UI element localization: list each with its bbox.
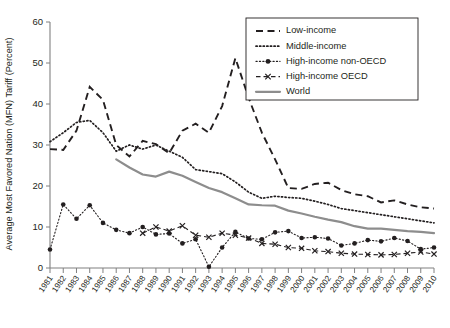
y-tick-label: 30 — [32, 139, 43, 150]
data-point-marker — [193, 237, 198, 242]
data-point-marker — [127, 231, 132, 236]
data-point-marker — [61, 202, 66, 207]
data-point-marker — [339, 243, 344, 248]
data-point-marker — [154, 232, 159, 237]
y-tick-labels: 0102030405060 — [32, 16, 50, 273]
legend-label: High-income non-OECD — [286, 56, 387, 66]
legend-swatch-dot-marker — [266, 59, 271, 64]
data-point-marker — [87, 203, 92, 208]
data-point-marker — [114, 228, 119, 233]
x-tick-label: 2010 — [421, 274, 439, 294]
data-point-marker — [286, 229, 291, 234]
series-high-income-oecd — [140, 223, 437, 257]
data-point-marker — [220, 245, 225, 250]
data-point-marker — [313, 235, 318, 240]
y-tick-label: 40 — [32, 98, 43, 109]
data-point-marker — [180, 223, 185, 228]
x-tick-labels: 1981198219831984198519861987198819891990… — [37, 268, 439, 294]
data-point-marker — [431, 251, 436, 256]
y-tick-label: 50 — [32, 57, 43, 68]
y-tick-label: 20 — [32, 180, 43, 191]
legend-label: High-income OECD — [286, 71, 368, 81]
mfn-tariff-line-chart: Average Most Favored Nation (MFN) Tariff… — [0, 0, 450, 328]
y-tick-label: 0 — [38, 262, 43, 273]
series-line — [50, 120, 434, 222]
legend-label: Low-income — [286, 25, 336, 35]
data-point-marker — [207, 264, 212, 269]
legend-label: Middle-income — [286, 41, 346, 51]
data-point-marker — [101, 221, 106, 226]
data-point-marker — [140, 225, 145, 230]
data-point-marker — [432, 245, 437, 250]
data-point-marker — [365, 238, 370, 243]
series-middle-income — [50, 120, 434, 222]
legend: Low-incomeMiddle-incomeHigh-income non-O… — [246, 18, 418, 100]
data-point-marker — [48, 247, 53, 252]
y-axis-title: Average Most Favored Nation (MFN) Tariff… — [4, 38, 14, 251]
data-point-marker — [180, 241, 185, 246]
data-point-marker — [74, 217, 79, 222]
x-axis: 1981198219831984198519861987198819891990… — [37, 268, 439, 294]
data-point-marker — [273, 230, 278, 235]
data-point-marker — [405, 239, 410, 244]
series-high-income-non-oecd — [48, 202, 437, 269]
data-point-marker — [379, 239, 384, 244]
data-point-marker — [326, 236, 331, 241]
data-point-marker — [140, 231, 145, 236]
data-point-marker — [392, 236, 397, 241]
chart-container: Average Most Favored Nation (MFN) Tariff… — [0, 0, 450, 328]
data-point-marker — [299, 236, 304, 241]
y-tick-label: 10 — [32, 221, 43, 232]
data-point-marker — [352, 241, 357, 246]
legend-label: World — [286, 86, 310, 96]
y-axis-title-group: Average Most Favored Nation (MFN) Tariff… — [4, 38, 14, 251]
data-point-marker — [260, 237, 265, 242]
y-tick-label: 60 — [32, 16, 43, 27]
y-axis: 0102030405060 — [32, 16, 50, 273]
